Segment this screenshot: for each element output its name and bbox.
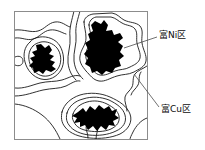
microstructure-diagram xyxy=(0,0,205,150)
annotation-label-cu-rich: 富Cu区 xyxy=(161,104,191,115)
annotation-label-ni-rich: 富Ni区 xyxy=(159,30,186,41)
microstructure-figure: 富Ni区 富Cu区 xyxy=(0,0,205,150)
